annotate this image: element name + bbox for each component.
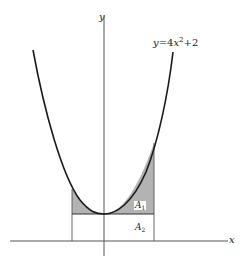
parabola-diagram <box>0 0 242 266</box>
y-axis-label: y <box>99 12 105 22</box>
equation-equals: = <box>159 37 167 48</box>
region-a2-sub: 2 <box>142 226 146 233</box>
equation-const: 2 <box>192 37 198 48</box>
equation-label: y=4x2+2 <box>153 38 198 48</box>
x-axis-label: x <box>229 235 235 245</box>
region-a1-sub: 1 <box>142 204 146 211</box>
region-a1-label: A1 <box>134 201 146 210</box>
equation-plus: + <box>184 37 192 48</box>
region-a2-label: A2 <box>134 223 146 232</box>
